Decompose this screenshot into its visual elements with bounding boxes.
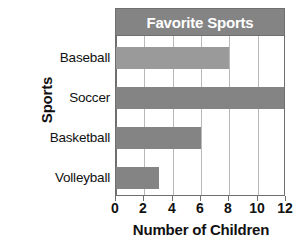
x-tick-label-4: 4 [160, 200, 184, 216]
x-tick-label-10: 10 [245, 200, 269, 216]
bar-volleyball [116, 167, 159, 189]
category-label-basketball: Basketball [50, 127, 110, 149]
x-tick-label-8: 8 [216, 200, 240, 216]
bar-chart-figure: Sports BaseballSoccerBasketballVolleybal… [0, 0, 296, 247]
bar-series [116, 36, 284, 195]
x-tick-label-12: 12 [273, 200, 296, 216]
x-tick-label-6: 6 [188, 200, 212, 216]
plot-area [115, 36, 285, 196]
x-axis-tick-labels: 024681012 [100, 200, 296, 218]
category-label-volleyball: Volleyball [55, 167, 110, 189]
x-axis-title: Number of Children [106, 221, 296, 238]
category-axis-labels: BaseballSoccerBasketballVolleyball [20, 36, 112, 196]
category-label-baseball: Baseball [60, 47, 110, 69]
x-tick-label-0: 0 [103, 200, 127, 216]
chart-title: Favorite Sports [146, 14, 253, 31]
bar-soccer [116, 87, 285, 109]
bar-basketball [116, 127, 201, 149]
category-label-soccer: Soccer [69, 87, 110, 109]
bar-baseball [116, 47, 229, 69]
chart-title-band: Favorite Sports [115, 8, 285, 36]
x-tick-label-2: 2 [131, 200, 155, 216]
